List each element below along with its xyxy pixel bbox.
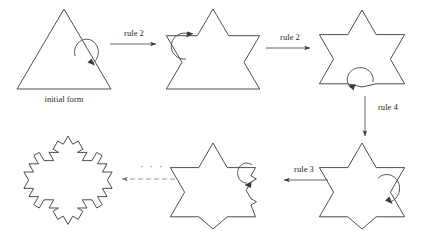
- transition-5-label: · · ·: [140, 160, 165, 172]
- transition-3-rule4[interactable]: rule 4: [365, 96, 399, 136]
- stage-5-partial-level2: [166, 139, 262, 233]
- stage-1-initial-triangle: initial form: [12, 5, 118, 105]
- stage-4-koch-star: [314, 139, 410, 233]
- transition-3-label: rule 4: [378, 102, 399, 112]
- stage-2-hitbox[interactable]: [162, 5, 264, 95]
- stage-5-hitbox[interactable]: [166, 139, 262, 233]
- transition-2-label: rule 2: [280, 32, 300, 42]
- figure-canvas: initial form rule 2 rule 2: [0, 0, 426, 240]
- stage-4-hitbox[interactable]: [314, 139, 410, 233]
- stage-1-hitbox[interactable]: [12, 5, 118, 105]
- transition-2-rule2[interactable]: rule 2: [266, 32, 310, 48]
- transition-4-label: rule 3: [294, 164, 314, 174]
- stage-3-three-bumps: [314, 6, 410, 94]
- stage-6-level2-snowflake: [20, 132, 116, 228]
- stage-3-hitbox[interactable]: [314, 6, 410, 94]
- transition-1-label: rule 2: [124, 28, 144, 38]
- koch-snowflake-figure: initial form rule 2 rule 2: [0, 0, 426, 240]
- stage-2-two-bumps: [162, 5, 264, 95]
- stage-6-hitbox[interactable]: [20, 132, 116, 228]
